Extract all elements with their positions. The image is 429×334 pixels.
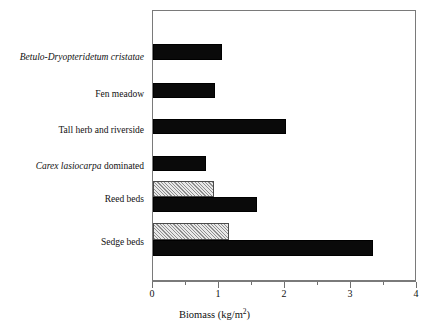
bar-tall-herb-solid [153, 119, 286, 134]
bar-carex-solid [153, 156, 206, 171]
bar-fen-meadow-solid [153, 83, 215, 98]
category-label-betulo-italic: Betulo-Dryopteridetum cristatae [20, 52, 144, 62]
x-tick-minor-3.5 [383, 282, 384, 285]
x-tick-label-0: 0 [150, 288, 155, 300]
category-label-carex-italic: Carex lasiocarpa [36, 161, 102, 171]
x-tick-label-1: 1 [216, 288, 221, 300]
x-tick-label-4: 4 [414, 288, 419, 300]
x-tick-minor-2.5 [317, 282, 318, 285]
x-tick-minor-0.5 [185, 282, 186, 285]
bar-betulo-solid [153, 44, 222, 60]
category-label-column: Betulo-Dryopteridetum cristatae Fen mead… [0, 10, 148, 281]
category-label-fen-meadow: Fen meadow [95, 89, 144, 100]
bars-layer [153, 11, 415, 280]
category-label-reed-beds-roman: Reed beds [105, 194, 144, 204]
bar-sedge-beds-hatch [153, 223, 229, 240]
category-label-reed-beds: Reed beds [105, 194, 144, 205]
x-axis-title: Biomass (kg/m2) [0, 309, 429, 320]
x-tick-minor-1.5 [251, 282, 252, 285]
category-label-tall-herb: Tall herb and riverside [58, 125, 144, 136]
bar-chart-figure: Betulo-Dryopteridetum cristatae Fen mead… [0, 0, 429, 334]
category-label-carex: Carex lasiocarpa dominated [36, 161, 144, 172]
x-tick-label-2: 2 [282, 288, 287, 300]
bar-reed-beds-solid [153, 197, 257, 212]
category-label-fen-meadow-roman: Fen meadow [95, 89, 144, 99]
bar-sedge-beds-solid [153, 240, 373, 256]
category-label-tall-herb-roman: Tall herb and riverside [58, 125, 144, 135]
x-tick-label-3: 3 [348, 288, 353, 300]
category-label-sedge-beds: Sedge beds [101, 237, 144, 248]
category-label-carex-roman: dominated [102, 161, 144, 171]
category-label-betulo: Betulo-Dryopteridetum cristatae [20, 52, 144, 63]
category-label-sedge-beds-roman: Sedge beds [101, 237, 144, 247]
x-axis [152, 281, 416, 283]
x-axis-title-tail: ) [247, 309, 251, 320]
x-axis-title-main: Biomass (kg/m [179, 309, 243, 320]
bar-reed-beds-hatch [153, 181, 214, 197]
